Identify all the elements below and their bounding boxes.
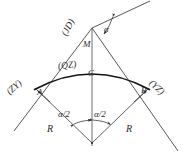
alpha-half-left-angle-arc bbox=[74, 120, 92, 125]
point-marker-center bbox=[91, 142, 93, 144]
label-point-b: B bbox=[141, 86, 147, 95]
left-tangent-line bbox=[14, 28, 92, 131]
label-point-a: A bbox=[37, 88, 43, 97]
alpha-half-right-angle-arc bbox=[93, 120, 111, 125]
label-point-m: M bbox=[83, 40, 91, 49]
diagram-canvas bbox=[0, 0, 185, 157]
label-point-c: C bbox=[88, 69, 94, 78]
label-alpha-half-right: α/2 bbox=[94, 110, 106, 119]
label-radius-left: R bbox=[47, 124, 53, 134]
label-alpha-half-left: α/2 bbox=[58, 110, 70, 119]
back-tangent-extension-line bbox=[92, 1, 150, 28]
curve-diagram: (JD) α M (QZ) C (ZY) A (YZ) B α/2 α/2 R … bbox=[0, 0, 185, 157]
label-radius-right: R bbox=[126, 124, 132, 134]
label-alpha: α bbox=[104, 25, 109, 34]
